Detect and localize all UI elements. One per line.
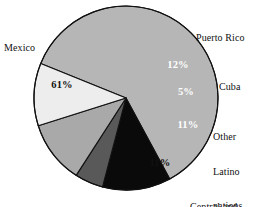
slice-value-central-south: 11% xyxy=(149,157,170,168)
slice-label-mexico: Mexico xyxy=(4,42,35,54)
slice-label-puerto-rico: Puerto Rico xyxy=(196,32,245,44)
pie-chart-figure: 61% 12% 5% 11% 11% Mexico Puerto Rico Cu… xyxy=(0,0,259,207)
slice-label-other-latino-line1: Other xyxy=(213,131,243,143)
slice-value-mexico: 61% xyxy=(51,79,73,90)
slice-label-central-south-line1: Central and xyxy=(190,201,251,207)
slice-label-cuba: Cuba xyxy=(219,81,241,93)
slice-value-other-latino: 11% xyxy=(177,119,198,130)
slice-label-central-south: Central and South America xyxy=(190,178,251,207)
slice-value-cuba: 5% xyxy=(178,86,194,97)
slice-value-puerto-rico: 12% xyxy=(167,59,189,70)
slice-label-other-latino-line2: Latino xyxy=(213,166,243,178)
